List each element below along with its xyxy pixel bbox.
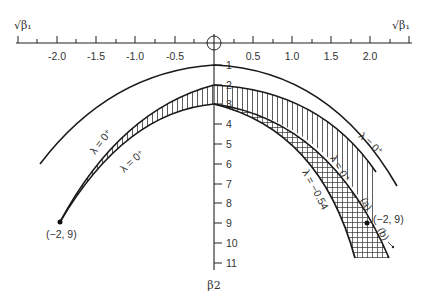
y-axis-label: β2 bbox=[207, 279, 220, 292]
x-tick-label: 1.0 bbox=[285, 50, 300, 62]
x-tick-label: -2.0 bbox=[48, 50, 66, 62]
y-axis: 1 2 3 4 5 6 7 8 9 10 11 β2 bbox=[207, 34, 238, 292]
right-point-label: (−2, 9) bbox=[373, 213, 404, 225]
arrow-b-head bbox=[392, 246, 394, 248]
x-tick-label: 1.5 bbox=[324, 50, 339, 62]
x-axis-label-left: √β₁ bbox=[14, 19, 32, 32]
x-tick-label: -0.5 bbox=[166, 50, 184, 62]
y-tick-label: 7 bbox=[226, 178, 232, 190]
y-tick-label: 8 bbox=[226, 197, 232, 209]
x-tick-label: -1.0 bbox=[126, 50, 144, 62]
left-point-label: (−2, 9) bbox=[46, 228, 77, 240]
y-tick-label: 11 bbox=[226, 257, 237, 269]
beta-plane-diagram: -2.0 -1.5 -1.0 -0.5 0.5 1.0 1.5 2.0 √β₁ … bbox=[0, 0, 429, 300]
y-tick-label: 4 bbox=[226, 118, 232, 130]
diagram-canvas: -2.0 -1.5 -1.0 -0.5 0.5 1.0 1.5 2.0 √β₁ … bbox=[0, 0, 429, 300]
right-point-marker bbox=[365, 221, 370, 226]
y-tick-label: 10 bbox=[226, 237, 238, 249]
x-tick-label: 2.0 bbox=[363, 50, 378, 62]
x-axis: -2.0 -1.5 -1.0 -0.5 0.5 1.0 1.5 2.0 √β₁ … bbox=[14, 19, 412, 62]
arrow-b bbox=[388, 242, 392, 246]
x-tick-label: 0.5 bbox=[246, 50, 261, 62]
y-tick-label: 6 bbox=[226, 158, 232, 170]
x-tick-label: -1.5 bbox=[87, 50, 105, 62]
lambda-label-left-lower: λ = 0⁺ bbox=[117, 146, 147, 174]
x-axis-label-right: √β₁ bbox=[392, 19, 410, 32]
y-tick-label: 1 bbox=[226, 59, 232, 71]
y-tick-label: 9 bbox=[226, 217, 232, 229]
left-point-marker bbox=[58, 220, 63, 225]
y-tick-label: 5 bbox=[226, 138, 232, 150]
